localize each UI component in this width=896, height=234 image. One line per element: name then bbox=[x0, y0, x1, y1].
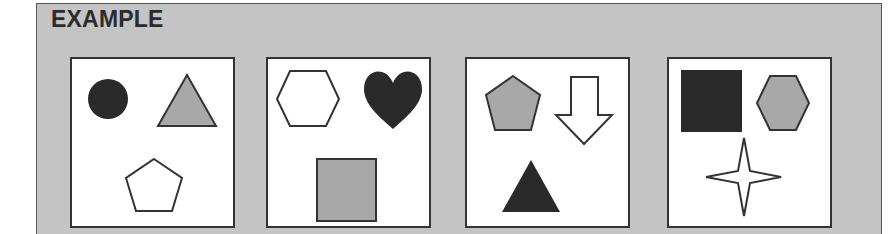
gray-hexagon-icon bbox=[757, 76, 809, 130]
black-triangle-icon bbox=[502, 160, 560, 212]
panel-title: EXAMPLE bbox=[51, 6, 164, 33]
figure-card-4 bbox=[667, 57, 832, 228]
white-hexagon-icon bbox=[277, 71, 339, 126]
gray-pentagon-icon bbox=[486, 76, 540, 130]
white-four-point-star-icon bbox=[706, 138, 781, 216]
black-heart-icon bbox=[364, 72, 422, 129]
figure-card-1 bbox=[70, 57, 235, 228]
figure-card-3 bbox=[465, 57, 630, 228]
white-down-arrow-icon bbox=[556, 77, 612, 144]
black-circle-icon bbox=[88, 79, 128, 119]
black-square-icon bbox=[681, 70, 742, 132]
white-pentagon-icon bbox=[126, 159, 182, 211]
gray-triangle-icon bbox=[158, 75, 216, 126]
gray-square-icon bbox=[317, 159, 376, 221]
figure-card-2 bbox=[266, 57, 431, 228]
